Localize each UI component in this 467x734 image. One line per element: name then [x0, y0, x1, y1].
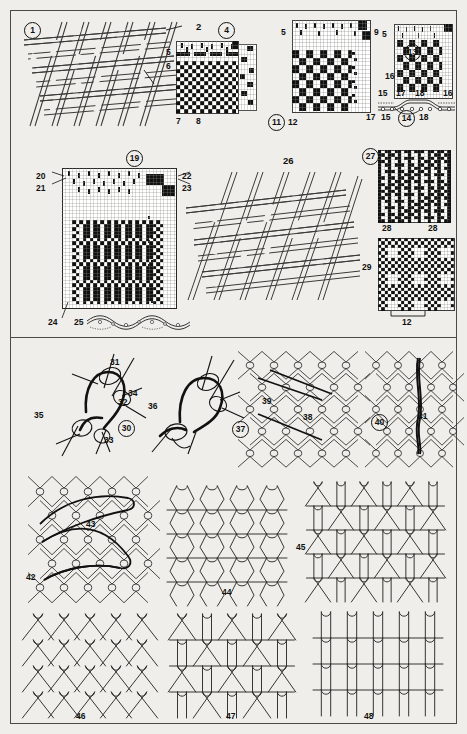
- fig-47-warp-knit: [168, 600, 296, 704]
- fig-11-callout-9: 9: [374, 28, 379, 37]
- fig-14-callout-15: 15: [381, 113, 390, 122]
- fig-4-grid: [176, 41, 238, 113]
- fig-25-wavy-weft: [86, 313, 192, 333]
- fig-30-number: 30: [118, 420, 135, 437]
- fig-47-number: 47: [226, 712, 235, 721]
- fig-37-callout-39: 39: [262, 397, 271, 406]
- fig-13-number: 13: [404, 44, 421, 61]
- fig-42-callout-43: 43: [86, 520, 95, 529]
- fig-46-number: 46: [76, 712, 85, 721]
- fig-11-callout-12: 12: [288, 118, 297, 127]
- fig-4-callout-5: 5: [166, 48, 171, 57]
- section-divider: [11, 337, 456, 338]
- fig-30-callout-35: 35: [34, 411, 43, 420]
- fig-42-number: 42: [26, 573, 35, 582]
- fig-44-number: 44: [222, 588, 231, 597]
- fig-46-warp-knit: [22, 600, 154, 704]
- fig-26-woven-fabric: [180, 168, 362, 308]
- fig-4-number: 4: [218, 22, 235, 39]
- fig-27-callout-28a: 28: [382, 224, 391, 233]
- fig-19-callout-20: 20: [36, 172, 45, 181]
- fig-27-grid: [378, 150, 450, 222]
- fig-9-strip-grid: [238, 44, 256, 110]
- fig-13-callout-5: 5: [382, 30, 387, 39]
- fig-1-callout-2: 2: [196, 22, 201, 32]
- fig-11-grid: [292, 20, 370, 112]
- fig-36-number: 36: [148, 402, 157, 411]
- fig-37-net-structure: [236, 348, 356, 460]
- fig-14-callout-17: 17: [366, 113, 375, 122]
- fig-19-leaders: [46, 168, 196, 190]
- illustration-plate: 1 2 3 4: [0, 0, 467, 734]
- fig-14-callout-18: 18: [419, 113, 428, 122]
- fig-29-grid: [378, 238, 454, 310]
- fig-13-callout-16: 16: [385, 72, 394, 81]
- fig-4-callout-8: 8: [196, 117, 201, 126]
- fig-1-woven-fabric: [16, 14, 196, 132]
- fig-13-grid: [394, 24, 452, 98]
- fig-29-number: 29: [362, 263, 371, 272]
- fig-44-warp-knit: [162, 472, 290, 590]
- fig-14-number: 14: [398, 110, 415, 127]
- fig-45-warp-knit: [304, 470, 446, 592]
- fig-45-number: 45: [296, 543, 305, 552]
- fig-19-callout-21: 21: [36, 184, 45, 193]
- fig-27-callout-28b: 28: [428, 224, 437, 233]
- fig-19-callout-24: 24: [48, 318, 57, 327]
- fig-48-warp-knit: [310, 598, 444, 704]
- fig-19-number: 19: [126, 150, 143, 167]
- fig-4-callout-6: 6: [166, 62, 171, 71]
- fig-40-number: 40: [371, 414, 388, 431]
- fig-26-number: 26: [283, 156, 294, 166]
- fig-27-number: 27: [362, 148, 379, 165]
- fig-30-callout-31: 31: [110, 358, 119, 367]
- fig-29-callout-12: 12: [402, 318, 411, 327]
- fig-37-callout-38: 38: [303, 413, 312, 422]
- fig-4-callout-7: 7: [176, 117, 181, 126]
- fig-40-callout-41: 41: [418, 412, 427, 421]
- fig-11-callout-5: 5: [281, 28, 286, 37]
- fig-30-callout-34: 34: [128, 389, 137, 398]
- fig-40-net-structure: [362, 348, 458, 460]
- fig-37-number: 37: [232, 421, 249, 438]
- fig-30-callout-33: 33: [104, 436, 113, 445]
- fig-1-number: 1: [24, 22, 41, 39]
- fig-36-loop-detail: [150, 352, 250, 456]
- fig-42-net-structure: [24, 472, 152, 592]
- fig-19-leader-24: [58, 302, 78, 320]
- fig-11-number: 11: [268, 114, 285, 131]
- fig-30-callout-32: 32: [118, 398, 127, 407]
- fig-48-number: 48: [364, 712, 373, 721]
